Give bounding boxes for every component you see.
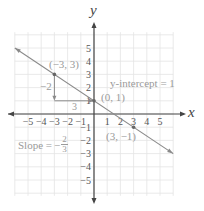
y-tick-label: 2 [86, 82, 91, 93]
slope-label: Slope = − 2 3 [18, 135, 68, 154]
line-arrow-left-icon [15, 48, 21, 53]
y-axis-label: y [90, 2, 97, 19]
y-tick-label: −3 [80, 148, 91, 159]
y-tick-label: 4 [86, 56, 91, 67]
point-label-neg3-3: (−3, 3) [49, 58, 79, 70]
x-axis-arrow-left-icon [8, 112, 14, 117]
rise-arrow-icon [52, 96, 56, 101]
y-axis-arrow-down-icon [92, 198, 97, 204]
data-point [53, 73, 57, 77]
run-label: 3 [72, 101, 77, 112]
x-axis-label: x [188, 104, 195, 121]
data-point [92, 99, 96, 103]
y-tick-label: −5 [80, 175, 91, 186]
data-point [132, 125, 136, 129]
y-tick-label: 3 [86, 69, 91, 80]
x-tick-label: −4 [36, 116, 47, 127]
intercept-label: y-intercept = 1 [110, 77, 175, 89]
x-tick-label: −5 [23, 116, 34, 127]
slope-text: Slope = [18, 139, 52, 151]
y-tick-label: −2 [80, 135, 91, 146]
x-tick-label: 4 [144, 116, 149, 127]
slope-sign: − [54, 139, 60, 151]
rise-label: −2 [40, 80, 52, 92]
x-tick-label: −2 [62, 116, 73, 127]
x-tick-label: 3 [131, 116, 136, 127]
y-tick-label: −4 [80, 161, 91, 172]
slope-fraction: 2 3 [61, 135, 68, 154]
point-label-3-neg1: (3, −1) [106, 130, 136, 142]
y-tick-label: −1 [80, 122, 91, 133]
point-label-0-1: (0, 1) [101, 91, 125, 103]
coordinate-plane: −5−4−3−2−11234554321−1−2−3−4−5 [0, 0, 204, 211]
line-arrow-right-icon [167, 149, 173, 154]
x-tick-label: 1 [105, 116, 110, 127]
y-tick-label: 5 [86, 43, 91, 54]
x-tick-label: −3 [49, 116, 60, 127]
slope-denominator: 3 [62, 145, 67, 154]
x-tick-label: 5 [158, 116, 163, 127]
y-axis-arrow-up-icon [92, 22, 97, 28]
x-axis-arrow-right-icon [180, 112, 186, 117]
